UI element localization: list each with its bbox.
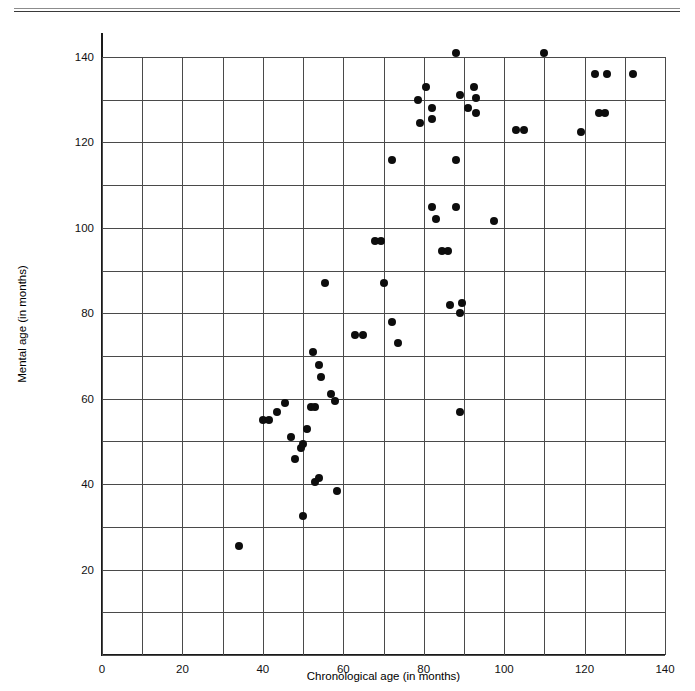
gridline-horizontal: [102, 313, 665, 314]
data-point: [388, 318, 396, 326]
data-point: [422, 83, 430, 91]
data-point: [428, 203, 436, 211]
data-point: [414, 96, 422, 104]
x-axis-title: Chronological age (in months): [102, 670, 665, 682]
gridline-horizontal: [102, 100, 665, 101]
data-point: [428, 115, 436, 123]
data-point: [472, 94, 480, 102]
gridline-horizontal: [102, 228, 665, 229]
data-point: [287, 433, 295, 441]
data-point: [299, 512, 307, 520]
data-point: [512, 126, 520, 134]
data-point: [458, 299, 466, 307]
gridline-horizontal: [102, 612, 665, 613]
data-point: [317, 373, 325, 381]
data-point: [380, 279, 388, 287]
data-point: [591, 70, 599, 78]
data-point: [446, 301, 454, 309]
data-point: [472, 109, 480, 117]
data-point: [456, 91, 464, 99]
plot-area: [102, 57, 665, 655]
y-tick-label: 80: [56, 307, 94, 319]
gridline-vertical: [665, 57, 666, 655]
data-point: [265, 416, 273, 424]
gridline-horizontal: [102, 484, 665, 485]
data-point: [303, 425, 311, 433]
gridline-horizontal: [102, 441, 665, 442]
data-point: [359, 331, 367, 339]
data-point: [299, 440, 307, 448]
y-tick-label: 120: [56, 136, 94, 148]
data-point: [520, 126, 528, 134]
data-point: [603, 70, 611, 78]
data-point: [394, 339, 402, 347]
gridline-horizontal: [102, 57, 665, 58]
data-point: [309, 348, 317, 356]
y-tick-label: 140: [56, 51, 94, 63]
y-tick-label: 60: [56, 393, 94, 405]
data-point: [273, 408, 281, 416]
page-header-hairline: [14, 8, 680, 9]
gridline-horizontal: [102, 570, 665, 571]
data-point: [577, 128, 585, 136]
data-point: [452, 156, 460, 164]
data-point: [315, 361, 323, 369]
data-point: [456, 408, 464, 416]
gridline-horizontal: [102, 356, 665, 357]
data-point: [601, 109, 609, 117]
data-point: [444, 247, 452, 255]
data-point: [432, 215, 440, 223]
data-point: [331, 397, 339, 405]
data-point: [281, 399, 289, 407]
y-tick-label: 20: [56, 564, 94, 576]
y-tick-label: 100: [56, 222, 94, 234]
data-point: [490, 217, 498, 225]
gridline-horizontal: [102, 271, 665, 272]
data-point: [291, 455, 299, 463]
data-point: [235, 542, 243, 550]
data-point: [452, 49, 460, 57]
data-point: [629, 70, 637, 78]
data-point: [540, 49, 548, 57]
y-axis-title: Mental age (in months): [16, 214, 28, 434]
data-point: [452, 203, 460, 211]
gridline-horizontal: [102, 655, 665, 656]
data-point: [464, 104, 472, 112]
page-header-rule: [14, 11, 680, 12]
data-point: [315, 474, 323, 482]
data-point: [470, 83, 478, 91]
data-point: [388, 156, 396, 164]
gridline-horizontal: [102, 185, 665, 186]
y-tick-label: 40: [56, 478, 94, 490]
gridline-horizontal: [102, 399, 665, 400]
data-point: [321, 279, 329, 287]
scatter-plot-figure: 020406080100120140 20406080100120140 Chr…: [0, 0, 695, 691]
data-point: [428, 104, 436, 112]
data-point: [456, 309, 464, 317]
data-point: [351, 331, 359, 339]
data-point: [333, 487, 341, 495]
data-point: [416, 119, 424, 127]
data-point: [311, 403, 319, 411]
gridline-horizontal: [102, 142, 665, 143]
gridline-horizontal: [102, 527, 665, 528]
